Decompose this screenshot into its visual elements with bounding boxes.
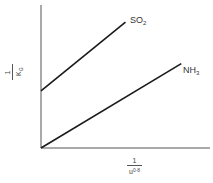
nh3-line <box>41 64 181 148</box>
x-axis-label: 1 u0·8 <box>127 157 142 176</box>
chart-canvas <box>0 0 213 183</box>
y-axis-label: 1 KG <box>6 64 23 80</box>
nh3-label: NH3 <box>183 65 199 76</box>
y-label-den-sub: G <box>18 68 24 72</box>
x-label-den-exp: 0·8 <box>133 167 140 173</box>
y-label-den-base: K <box>14 72 21 77</box>
so2-label-sub: 2 <box>143 20 146 26</box>
y-label-denominator: KG <box>14 68 23 77</box>
y-label-fraction-bar <box>12 64 13 80</box>
so2-label: SO2 <box>130 15 146 26</box>
y-label-numerator: 1 <box>4 70 11 74</box>
x-label-numerator: 1 <box>131 157 139 165</box>
so2-line <box>41 22 126 91</box>
x-label-denominator: u0·8 <box>127 166 142 176</box>
nh3-label-main: NH <box>183 65 196 75</box>
so2-label-main: SO <box>130 15 143 25</box>
nh3-label-sub: 3 <box>196 70 199 76</box>
